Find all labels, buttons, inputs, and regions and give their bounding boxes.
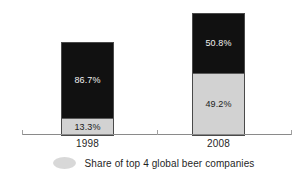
bar-1998-segment-top4[interactable]: 13.3%: [62, 118, 113, 135]
bar-2008[interactable]: 50.8% 49.2%: [192, 13, 245, 136]
stacked-bar-chart: 86.7% 13.3% 50.8% 49.2% 1998 2008 Share …: [0, 0, 307, 181]
bar-2008-top4-label: 49.2%: [205, 100, 231, 109]
bar-1998-remainder-label: 86.7%: [74, 76, 100, 85]
ellipse-swatch-icon: [53, 157, 76, 169]
bar-1998-segment-remainder[interactable]: 86.7%: [62, 43, 113, 118]
bar-2008-remainder-label: 50.8%: [205, 39, 231, 48]
bar-2008-segment-top4[interactable]: 49.2%: [193, 73, 244, 135]
bar-2008-segment-remainder[interactable]: 50.8%: [193, 14, 244, 73]
bar-1998[interactable]: 86.7% 13.3%: [61, 42, 114, 136]
x-axis-tick-right: [291, 130, 292, 135]
x-axis-tick-left: [22, 130, 23, 135]
legend-entry-label: Share of top 4 global beer companies: [85, 158, 255, 169]
plot-area: 86.7% 13.3% 50.8% 49.2%: [0, 0, 307, 136]
chart-legend: Share of top 4 global beer companies: [0, 157, 307, 169]
x-axis-tick-middle: [157, 130, 158, 135]
x-axis-label-1998: 1998: [61, 138, 114, 149]
bar-1998-top4-label: 13.3%: [74, 123, 100, 132]
x-axis-label-2008: 2008: [192, 138, 245, 149]
